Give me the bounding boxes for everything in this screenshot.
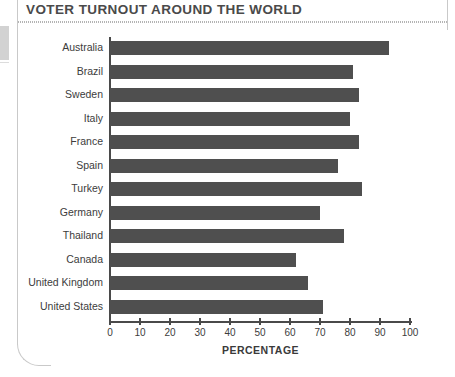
- x-axis-tick-label: 70: [314, 327, 325, 338]
- x-axis-tick: [229, 318, 231, 325]
- x-axis-tick: [289, 318, 291, 325]
- bar: [110, 112, 350, 126]
- category-label: Sweden: [65, 86, 103, 102]
- plot-area: AustraliaBrazilSwedenItalyFranceSpainTur…: [110, 38, 410, 320]
- x-axis-tick-label: 20: [164, 327, 175, 338]
- bar: [110, 276, 308, 290]
- x-axis-tick-label: 40: [224, 327, 235, 338]
- x-axis-tick: [349, 318, 351, 325]
- category-label: Thailand: [63, 227, 103, 243]
- category-label: United States: [40, 298, 103, 314]
- x-axis-tick-label: 0: [107, 327, 113, 338]
- category-label: Canada: [66, 251, 103, 267]
- bar-row: Italy: [110, 109, 410, 133]
- x-axis-tick-label: 90: [374, 327, 385, 338]
- bar-row: Turkey: [110, 179, 410, 203]
- x-axis-tick-label: 100: [402, 327, 419, 338]
- bar-row: Sweden: [110, 85, 410, 109]
- x-axis-tick: [409, 318, 411, 325]
- x-axis-title: PERCENTAGE: [109, 344, 412, 356]
- category-label: France: [70, 133, 103, 149]
- category-label: United Kingdom: [28, 274, 103, 290]
- x-axis-tick: [139, 318, 141, 325]
- bar-row: United States: [110, 297, 410, 321]
- bar-row: France: [110, 132, 410, 156]
- category-label: Germany: [60, 204, 103, 220]
- category-label: Australia: [62, 39, 103, 55]
- x-axis-tick-label: 50: [254, 327, 265, 338]
- bar-row: Australia: [110, 38, 410, 62]
- x-axis-tick: [259, 318, 261, 325]
- bar: [110, 159, 338, 173]
- bar-row: United Kingdom: [110, 273, 410, 297]
- x-axis-tick: [109, 318, 111, 325]
- bar: [110, 41, 389, 55]
- bar-row: Canada: [110, 250, 410, 274]
- bar: [110, 88, 359, 102]
- bar: [110, 300, 323, 314]
- bar-row: Thailand: [110, 226, 410, 250]
- x-axis-tick-label: 80: [344, 327, 355, 338]
- x-axis-tick-label: 60: [284, 327, 295, 338]
- bar: [110, 182, 362, 196]
- bar: [110, 206, 320, 220]
- bar: [110, 135, 359, 149]
- x-axis-tick: [199, 318, 201, 325]
- x-axis-tick-label: 10: [134, 327, 145, 338]
- bar-row: Brazil: [110, 62, 410, 86]
- category-label: Spain: [76, 157, 103, 173]
- bar: [110, 65, 353, 79]
- x-axis-tick: [169, 318, 171, 325]
- bar-row: Germany: [110, 203, 410, 227]
- x-axis-tick: [379, 318, 381, 325]
- category-label: Italy: [84, 110, 103, 126]
- category-label: Turkey: [71, 180, 103, 196]
- bar-row: Spain: [110, 156, 410, 180]
- bar: [110, 253, 296, 267]
- book-page: VOTER TURNOUT AROUND THE WORLD Australia…: [0, 0, 455, 377]
- x-axis-tick: [319, 318, 321, 325]
- category-label: Brazil: [77, 63, 103, 79]
- bar: [110, 229, 344, 243]
- x-axis-tick-label: 30: [194, 327, 205, 338]
- bar-chart: AustraliaBrazilSwedenItalyFranceSpainTur…: [0, 0, 455, 377]
